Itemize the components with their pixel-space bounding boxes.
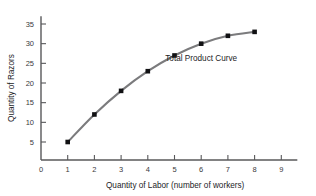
y-tick-label: 25 — [26, 59, 34, 68]
data-point-marker — [226, 34, 231, 39]
y-tick-label: 5 — [30, 138, 34, 147]
x-tick-label: 4 — [146, 165, 150, 174]
y-axis-title: Quantity of Razors — [7, 54, 16, 122]
data-point-marker — [92, 112, 97, 117]
x-tick-label: 9 — [279, 165, 283, 174]
x-tick-label: 7 — [226, 165, 230, 174]
data-point-marker — [252, 30, 257, 35]
x-tick-label: 0 — [39, 165, 43, 174]
total-product-curve-chart: 5101520253035 0123456789 Total Product C… — [0, 0, 316, 196]
data-point-marker — [119, 89, 124, 94]
series-annotation-label: Total Product Curve — [165, 54, 237, 63]
chart-container: 5101520253035 0123456789 Total Product C… — [0, 0, 316, 196]
y-tick-label: 35 — [26, 20, 34, 29]
x-tick-label: 6 — [199, 165, 203, 174]
x-axis-title: Quantity of Labor (number of workers) — [106, 181, 245, 190]
y-tick-label: 20 — [26, 79, 34, 88]
data-point-marker — [146, 69, 151, 74]
data-point-marker — [199, 41, 204, 46]
x-tick-label: 2 — [92, 165, 96, 174]
x-tick-label: 5 — [172, 165, 176, 174]
y-tick-label: 15 — [26, 98, 34, 107]
chart-annotations: Total Product Curve — [165, 54, 237, 63]
x-tick-label: 3 — [119, 165, 123, 174]
y-tick-label: 10 — [26, 118, 34, 127]
y-tick-label: 30 — [26, 39, 34, 48]
x-tick-label: 8 — [253, 165, 257, 174]
chart-background — [0, 0, 316, 196]
x-tick-label: 1 — [66, 165, 70, 174]
data-point-marker — [65, 140, 70, 145]
